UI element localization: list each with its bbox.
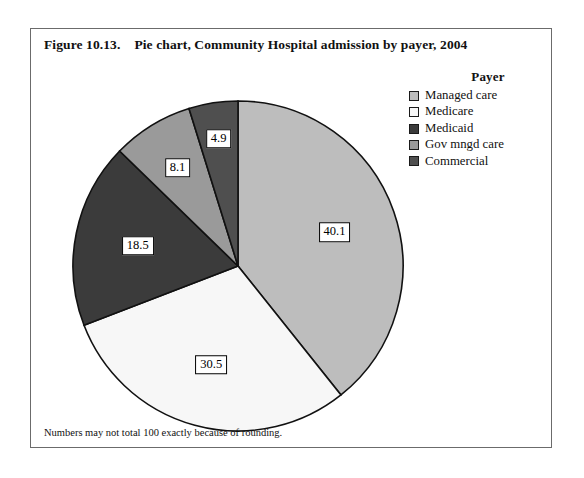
pie-slice-value-label: 18.5	[122, 236, 154, 256]
legend-swatch-icon	[409, 140, 419, 150]
legend-item: Gov mngd care	[409, 138, 539, 151]
legend-swatch-icon	[409, 91, 419, 101]
legend-item-label: Managed care	[425, 89, 497, 102]
legend-item: Medicare	[409, 105, 539, 118]
legend-swatch-icon	[409, 107, 419, 117]
legend-swatch-icon	[409, 124, 419, 134]
legend: Payer Managed careMedicareMedicaidGov mn…	[409, 69, 539, 171]
legend-item-label: Commercial	[425, 155, 488, 168]
legend-item: Commercial	[409, 155, 539, 168]
legend-item: Medicaid	[409, 122, 539, 135]
legend-item-label: Medicare	[425, 105, 473, 118]
pie-slices	[73, 101, 403, 431]
pie-slice-value-label: 4.9	[206, 129, 232, 149]
pie-slice-value-label: 8.1	[165, 158, 191, 178]
legend-rows: Managed careMedicareMedicaidGov mngd car…	[409, 89, 539, 168]
pie-chart	[71, 99, 405, 433]
pie-slice-value-label: 30.5	[195, 355, 227, 375]
legend-item: Managed care	[409, 89, 539, 102]
legend-title: Payer	[437, 69, 539, 85]
legend-swatch-icon	[409, 156, 419, 166]
figure-frame: Figure 10.13.Pie chart, Community Hospit…	[30, 28, 552, 448]
pie-slice-value-label: 40.1	[319, 222, 351, 242]
footnote: Numbers may not total 100 exactly becaus…	[44, 427, 282, 438]
legend-item-label: Gov mngd care	[425, 138, 504, 151]
legend-item-label: Medicaid	[425, 122, 473, 135]
